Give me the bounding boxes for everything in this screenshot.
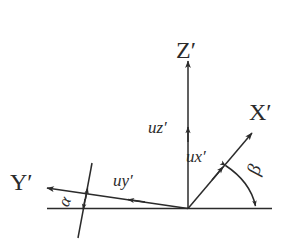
unit-vector-ux-prime-marker <box>212 167 223 180</box>
axis-label-z-prime: Z′ <box>176 38 196 62</box>
axis-label-x-prime: X′ <box>249 100 272 124</box>
unit-vector-label-ux-prime: ux′ <box>186 148 206 165</box>
coordinate-axes-diagram: Z′ X′ Y′ uz′ ux′ uy′ α β <box>0 0 288 240</box>
axis-label-y-prime: Y′ <box>10 170 33 194</box>
unit-vector-label-uz-prime: uz′ <box>148 119 167 136</box>
unit-vector-label-uy-prime: uy′ <box>113 172 133 189</box>
diagram-canvas <box>0 0 288 240</box>
